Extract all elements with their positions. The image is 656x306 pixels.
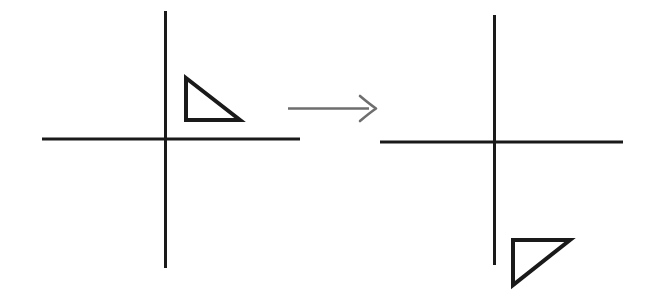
transformation-arrow [288, 96, 376, 121]
diagram-svg [0, 0, 656, 306]
triangle-after-outline [513, 240, 570, 285]
triangle-before-outline [186, 78, 240, 120]
triangle-before [186, 78, 240, 120]
panel-after [380, 15, 623, 285]
triangle-after [513, 240, 570, 285]
axes-after [380, 15, 623, 265]
panel-before [42, 11, 300, 268]
diagram-canvas: Reflection of a right triangle across th… [0, 0, 656, 306]
axes-before [42, 11, 300, 268]
